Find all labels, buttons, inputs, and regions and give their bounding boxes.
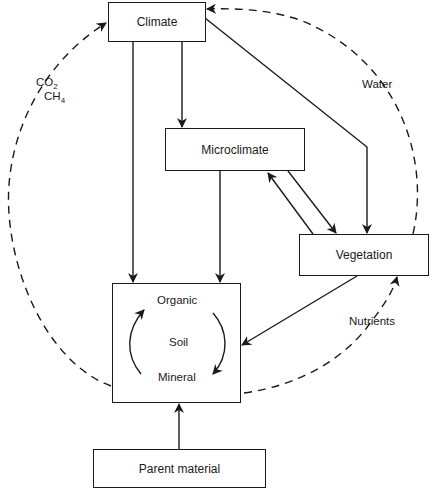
- co2-label: CO2: [36, 76, 58, 91]
- ch4-label: CH4: [44, 90, 65, 105]
- climate-node: Climate: [108, 2, 206, 42]
- climate-label: Climate: [137, 15, 178, 29]
- vegetation-label: Vegetation: [336, 248, 393, 262]
- dashed-soil-to-vegetation: [244, 277, 397, 393]
- soil-organic-label: Organic: [157, 294, 197, 306]
- arrow-vegetation-to-soil: [242, 276, 357, 345]
- parent-material-label: Parent material: [139, 462, 220, 476]
- arrow-vegetation-to-microclimate: [268, 173, 313, 234]
- vegetation-node: Vegetation: [299, 234, 429, 276]
- arrow-climate-to-vegetation: [205, 18, 367, 233]
- soil-node: Organic Soil Mineral: [112, 283, 241, 403]
- dashed-vegetation-to-climate: [207, 9, 417, 234]
- dashed-soil-to-climate: [8, 23, 111, 386]
- nutrients-label: Nutrients: [349, 315, 395, 327]
- microclimate-label: Microclimate: [201, 143, 268, 157]
- arrow-microclimate-to-vegetation: [288, 171, 336, 233]
- microclimate-node: Microclimate: [165, 128, 305, 171]
- parent-material-node: Parent material: [93, 449, 266, 488]
- water-label: Water: [362, 78, 392, 90]
- soil-mineral-label: Mineral: [158, 371, 196, 383]
- soil-label: Soil: [169, 336, 188, 348]
